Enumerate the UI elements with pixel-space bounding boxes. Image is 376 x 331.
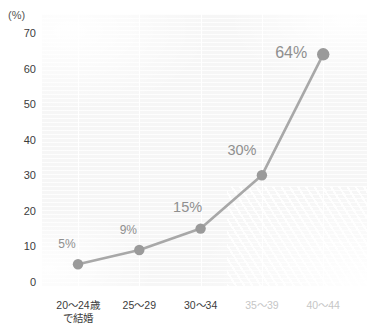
y-axis-tick-60: 60 — [6, 63, 36, 75]
y-axis-tick-40: 40 — [6, 134, 36, 146]
chart-figure: (%) 010203040506070 20〜24歳で結婚25〜2930〜343… — [0, 0, 376, 331]
y-axis-tick-10: 10 — [6, 240, 36, 252]
gridline-vertical-4 — [323, 14, 324, 286]
gridline-vertical-0 — [78, 14, 79, 286]
x-axis-tick-line1: 35〜39 — [245, 299, 278, 311]
y-axis-tick-20: 20 — [6, 205, 36, 217]
x-axis-tick-line1: 25〜29 — [123, 299, 156, 311]
paper-texture-scanlines — [42, 14, 367, 286]
x-axis-tick-line1: 40〜44 — [307, 299, 340, 311]
x-axis-tick-line1: 30〜34 — [184, 299, 217, 311]
data-point-label-1: 9% — [120, 223, 137, 237]
gridline-vertical-3 — [262, 14, 263, 286]
plot-area — [42, 14, 367, 286]
paper-texture-blotches — [42, 14, 367, 286]
x-axis-tick-4: 40〜44 — [275, 299, 371, 312]
paper-texture-diagonal-streaks — [227, 186, 367, 286]
data-point-label-2: 15% — [173, 199, 202, 215]
y-axis-tick-50: 50 — [6, 98, 36, 110]
data-point-label-0: 5% — [58, 237, 75, 251]
y-axis-tick-0: 0 — [6, 276, 36, 288]
gridline-vertical-2 — [201, 14, 202, 286]
x-axis-tick-line2: で結婚 — [30, 312, 126, 325]
data-point-label-4: 64% — [275, 44, 307, 62]
data-point-label-3: 30% — [227, 142, 256, 158]
y-axis-unit-label: (%) — [8, 9, 25, 21]
y-axis-tick-30: 30 — [6, 169, 36, 181]
gridline-vertical-1 — [139, 14, 140, 286]
y-axis-tick-70: 70 — [6, 27, 36, 39]
